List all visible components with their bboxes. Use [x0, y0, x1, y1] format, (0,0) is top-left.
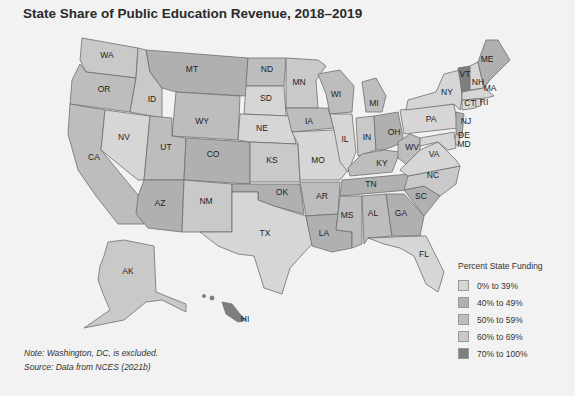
label-NH: NH — [472, 77, 484, 87]
label-MT: MT — [186, 64, 198, 74]
label-NE: NE — [256, 123, 268, 133]
label-AZ: AZ — [155, 198, 166, 208]
label-AR: AR — [316, 191, 328, 201]
state-KY[interactable] — [348, 150, 400, 176]
label-KS: KS — [266, 155, 278, 165]
legend-title: Percent State Funding — [458, 261, 543, 271]
legend-swatch — [458, 348, 469, 359]
legend-swatch — [458, 314, 469, 325]
legend-label: 50% to 59% — [477, 315, 523, 325]
label-MO: MO — [311, 155, 325, 165]
legend-label: 0% to 39% — [477, 281, 518, 291]
label-TN: TN — [365, 179, 376, 189]
legend: Percent State Funding 0% to 39% 40% to 4… — [458, 261, 543, 362]
label-AK: AK — [122, 266, 134, 276]
state-AK[interactable] — [84, 240, 186, 328]
legend-swatch — [458, 331, 469, 342]
source-text: Source: Data from NCES (2021b) — [24, 360, 158, 374]
legend-label: 40% to 49% — [477, 298, 523, 308]
legend-label: 70% to 100% — [477, 349, 528, 359]
state-CO[interactable] — [184, 138, 250, 184]
label-VT: VT — [460, 69, 471, 79]
label-NM: NM — [199, 196, 212, 206]
label-ME: ME — [481, 54, 494, 64]
legend-item: 0% to 39% — [458, 277, 543, 294]
label-KY: KY — [376, 158, 388, 168]
note-text: Note: Washington, DC, is excluded. — [24, 346, 158, 360]
footnote: Note: Washington, DC, is excluded. Sourc… — [24, 346, 158, 374]
state-NY[interactable] — [406, 70, 462, 110]
label-NV: NV — [118, 132, 130, 142]
label-SC: SC — [415, 191, 427, 201]
label-OH: OH — [388, 127, 401, 137]
label-MD: MD — [457, 139, 470, 149]
label-CA: CA — [88, 152, 100, 162]
label-UT: UT — [160, 142, 171, 152]
label-VA: VA — [429, 149, 440, 159]
label-WI: WI — [331, 89, 341, 99]
label-TX: TX — [260, 228, 271, 238]
label-NY: NY — [441, 87, 453, 97]
label-LA: LA — [319, 228, 330, 238]
label-MN: MN — [292, 77, 305, 87]
label-HI: HI — [241, 314, 250, 324]
label-OR: OR — [98, 84, 111, 94]
label-CT: CT — [464, 98, 475, 108]
label-ID: ID — [148, 94, 157, 104]
label-PA: PA — [426, 114, 437, 124]
label-WV: WV — [405, 142, 419, 152]
legend-item: 40% to 49% — [458, 294, 543, 311]
label-AL: AL — [368, 208, 379, 218]
label-RI: RI — [480, 97, 489, 107]
state-HI-island — [210, 296, 214, 300]
label-MS: MS — [341, 210, 354, 220]
label-FL: FL — [419, 249, 429, 259]
label-NC: NC — [427, 170, 439, 180]
label-IA: IA — [305, 116, 313, 126]
label-MA: MA — [484, 83, 497, 93]
label-SD: SD — [260, 93, 272, 103]
legend-label: 60% to 69% — [477, 332, 523, 342]
label-OK: OK — [276, 187, 289, 197]
label-ND: ND — [261, 64, 273, 74]
state-NM[interactable] — [182, 180, 232, 232]
label-WY: WY — [195, 116, 209, 126]
legend-item: 50% to 59% — [458, 311, 543, 328]
label-GA: GA — [395, 208, 408, 218]
legend-item: 70% to 100% — [458, 345, 543, 362]
label-MI: MI — [369, 98, 378, 108]
label-CO: CO — [207, 149, 220, 159]
state-HI-island — [203, 295, 206, 298]
state-FL[interactable] — [368, 236, 444, 292]
legend-item: 60% to 69% — [458, 328, 543, 345]
legend-swatch — [458, 280, 469, 291]
label-WA: WA — [100, 50, 114, 60]
label-IL: IL — [341, 134, 348, 144]
label-IN: IN — [363, 132, 372, 142]
label-NJ: NJ — [461, 116, 471, 126]
legend-swatch — [458, 297, 469, 308]
